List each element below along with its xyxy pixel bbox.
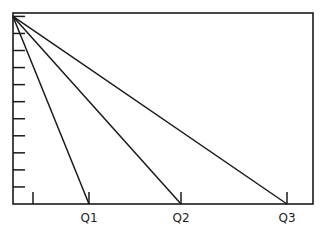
series-line-q2 [13, 16, 181, 204]
plot-frame [13, 13, 313, 204]
chart: Q1Q2Q3 [0, 0, 322, 233]
series-line-q3 [13, 16, 287, 204]
x-tick-label-q2: Q2 [172, 211, 189, 225]
series-line-q1 [13, 16, 89, 204]
x-tick-label-q1: Q1 [80, 211, 97, 225]
x-axis-labels: Q1Q2Q3 [80, 211, 295, 225]
x-axis-ticks [33, 192, 287, 204]
x-tick-label-q3: Q3 [278, 211, 295, 225]
series-lines [13, 16, 287, 204]
